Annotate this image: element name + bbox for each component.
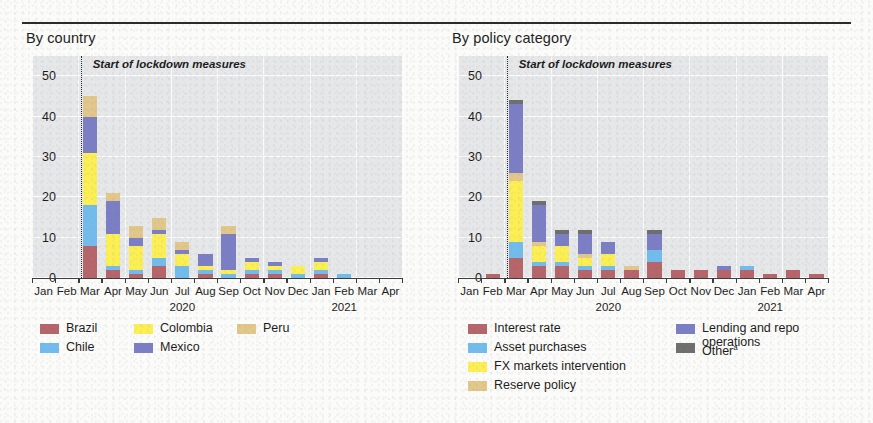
x-tick-label-feb-1: Feb xyxy=(483,285,503,297)
legend-swatch-icon xyxy=(468,381,487,391)
bar-jan-12 xyxy=(314,258,328,278)
legend-item-mexico: Mexico xyxy=(134,341,200,355)
bar-segment-interest-rate xyxy=(624,270,638,278)
x-tick-label-jun-5: Jun xyxy=(150,285,169,297)
bar-mar-14 xyxy=(786,270,800,278)
gridline-x-8 xyxy=(217,56,218,278)
legend-item-colombia: Colombia xyxy=(134,322,213,336)
gridline-x-6 xyxy=(597,56,598,278)
bar-may-4 xyxy=(129,226,143,278)
bar-segment-interest-rate xyxy=(740,270,754,278)
bar-oct-9 xyxy=(671,270,685,278)
y-tick-label-20: 20 xyxy=(22,190,56,204)
x-tick-label-nov-10: Nov xyxy=(691,285,711,297)
bar-segment-chile xyxy=(175,266,189,278)
x-tick-label-mar-14: Mar xyxy=(783,285,803,297)
x-tick-mark-0 xyxy=(32,278,33,283)
x-tick-label-dec-11: Dec xyxy=(714,285,734,297)
bar-segment-interest-rate xyxy=(694,270,708,278)
bar-segment-lending-and-repo-operations xyxy=(555,234,569,246)
bar-segment-fx-markets-intervention xyxy=(509,181,523,242)
bar-segment-brazil xyxy=(129,274,143,278)
bar-segment-lending-and-repo-operations xyxy=(578,234,592,254)
x-tick-label-aug-7: Aug xyxy=(195,285,215,297)
gridline-x-14 xyxy=(782,56,783,278)
bar-apr-15 xyxy=(809,274,823,278)
y-tick-label-10: 10 xyxy=(22,231,56,245)
x-tick-mark-12 xyxy=(310,278,311,283)
bar-segment-interest-rate xyxy=(486,274,500,278)
bar-segment-brazil xyxy=(106,270,120,278)
gridline-x-2 xyxy=(78,56,79,278)
gridline-x-8 xyxy=(643,56,644,278)
bar-segment-peru xyxy=(106,193,120,201)
gridline-x-12 xyxy=(310,56,311,278)
gridline-x-12 xyxy=(736,56,737,278)
x-tick-label-nov-10: Nov xyxy=(265,285,285,297)
bar-segment-colombia xyxy=(175,254,189,266)
bar-segment-mexico xyxy=(106,201,120,233)
legend-label: Interest rate xyxy=(494,322,561,336)
x-tick-label-oct-9: Oct xyxy=(669,285,687,297)
x-tick-mark-10 xyxy=(263,278,264,283)
x-tick-mark-2 xyxy=(504,278,505,283)
bar-nov-10 xyxy=(268,262,282,278)
bar-segment-lending-and-repo-operations xyxy=(532,205,546,241)
x-tick-mark-5 xyxy=(148,278,149,283)
x-tick-mark-12 xyxy=(736,278,737,283)
bar-segment-interest-rate xyxy=(763,274,777,278)
legend-item-brazil: Brazil xyxy=(40,322,97,336)
lockdown-start-line xyxy=(81,56,82,278)
y-tick-label-20: 20 xyxy=(448,190,482,204)
bar-feb-13 xyxy=(337,274,351,278)
legend-swatch-icon xyxy=(237,324,256,334)
bar-segment-interest-rate xyxy=(555,266,569,278)
gridline-x-2 xyxy=(504,56,505,278)
legend-item-peru: Peru xyxy=(237,322,289,336)
bar-segment-fx-markets-intervention xyxy=(578,258,592,266)
x-tick-label-aug-7: Aug xyxy=(621,285,641,297)
bar-segment-chile xyxy=(221,274,235,278)
x-tick-label-may-4: May xyxy=(551,285,573,297)
bar-segment-chile xyxy=(83,205,97,245)
bar-segment-colombia xyxy=(245,262,259,270)
x-tick-mark-0 xyxy=(458,278,459,283)
bar-segment-brazil xyxy=(152,266,166,278)
bar-segment-mexico xyxy=(221,234,235,270)
y-tick-label-30: 30 xyxy=(448,150,482,164)
x-tick-mark-9 xyxy=(240,278,241,283)
lockdown-start-line xyxy=(507,56,508,278)
bar-segment-brazil xyxy=(198,274,212,278)
plot-area-by-country: Start of lockdown measures xyxy=(32,56,402,278)
bar-segment-interest-rate xyxy=(647,262,661,278)
bar-apr-3 xyxy=(106,193,120,278)
x-tick-mark-1 xyxy=(55,278,56,283)
bar-segment-interest-rate xyxy=(809,274,823,278)
gridline-x-16 xyxy=(828,56,829,278)
gridline-x-4 xyxy=(125,56,126,278)
y-tick-label-40: 40 xyxy=(448,110,482,124)
x-tick-mark-8 xyxy=(643,278,644,283)
x-tick-label-jul-6: Jul xyxy=(175,285,190,297)
legend-swatch-icon xyxy=(676,324,695,334)
legend-item-asset-purchases: Asset purchases xyxy=(468,341,586,355)
bar-jun-5 xyxy=(152,217,166,278)
x-tick-mark-4 xyxy=(125,278,126,283)
x-tick-label-apr-15: Apr xyxy=(807,285,825,297)
bar-segment-asset-purchases xyxy=(509,242,523,258)
bar-apr-3 xyxy=(532,201,546,278)
legend-swatch-icon xyxy=(40,343,59,353)
x-axis-year-label-2020: 2020 xyxy=(596,301,622,313)
y-tick-label-10: 10 xyxy=(448,231,482,245)
legend-swatch-icon xyxy=(468,343,487,353)
legend-swatch-icon xyxy=(676,343,695,353)
bar-segment-colombia xyxy=(152,234,166,258)
x-tick-label-apr-15: Apr xyxy=(381,285,399,297)
bar-mar-2 xyxy=(83,96,97,278)
bar-segment-fx-markets-intervention xyxy=(555,246,569,262)
bar-segment-colombia xyxy=(314,262,328,270)
bar-mar-2 xyxy=(509,100,523,278)
bar-nov-10 xyxy=(694,270,708,278)
plot-area-by-policy-category: Start of lockdown measures xyxy=(458,56,828,278)
bar-segment-interest-rate xyxy=(601,270,615,278)
